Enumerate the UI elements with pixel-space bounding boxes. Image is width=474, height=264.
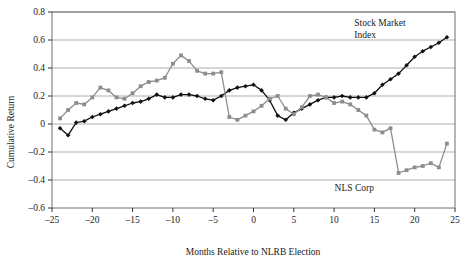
- data-point-marker: [243, 84, 248, 89]
- data-point-marker: [130, 101, 135, 106]
- data-point-marker: [324, 96, 328, 100]
- data-point-marker: [235, 118, 239, 122]
- data-point-marker: [373, 128, 377, 132]
- data-point-marker: [163, 76, 167, 80]
- series-layer: [58, 35, 449, 175]
- data-point-marker: [332, 101, 336, 105]
- data-point-marker: [195, 69, 199, 73]
- x-tick-label: 15: [370, 215, 380, 225]
- data-point-marker: [429, 161, 433, 165]
- series-label-stock-market-index: Stock Market: [354, 18, 406, 28]
- data-point-marker: [107, 89, 111, 93]
- x-tick-label: 25: [450, 215, 460, 225]
- data-point-marker: [308, 102, 313, 107]
- y-tick-label: –0.4: [27, 175, 45, 185]
- data-point-marker: [131, 91, 135, 95]
- data-point-marker: [429, 45, 434, 50]
- data-point-marker: [276, 94, 280, 98]
- data-point-marker: [356, 108, 360, 112]
- data-point-marker: [284, 107, 288, 111]
- data-point-marker: [260, 104, 264, 108]
- y-tick-label: 0: [40, 119, 45, 129]
- x-tick-label: –20: [84, 215, 100, 225]
- data-point-marker: [211, 72, 215, 76]
- y-tick-label: 0.8: [33, 7, 45, 17]
- series-label-nls-corp: NLS Corp: [335, 183, 375, 193]
- data-point-marker: [203, 97, 208, 102]
- x-tick-label: 20: [410, 215, 420, 225]
- data-point-marker: [123, 97, 127, 101]
- gridlines: [52, 12, 455, 180]
- data-point-marker: [115, 96, 119, 100]
- y-tick-label: –0.6: [27, 203, 45, 213]
- data-point-marker: [171, 62, 175, 66]
- data-point-marker: [389, 126, 393, 130]
- data-point-marker: [155, 79, 159, 83]
- data-point-marker: [74, 101, 78, 105]
- y-tick-label: 0.6: [33, 35, 45, 45]
- data-point-marker: [405, 168, 409, 172]
- x-tick-label: –10: [165, 215, 181, 225]
- data-point-marker: [147, 80, 151, 84]
- data-point-marker: [66, 108, 70, 112]
- data-point-marker: [244, 114, 248, 118]
- data-point-marker: [82, 103, 86, 107]
- data-point-marker: [195, 94, 200, 99]
- y-axis-title: Cumulative Return: [6, 95, 16, 168]
- x-tick-label: 5: [291, 215, 296, 225]
- data-point-marker: [106, 109, 111, 114]
- data-point-marker: [252, 110, 256, 114]
- data-point-marker: [58, 117, 62, 121]
- cumulative-return-line-chart: –0.6–0.4–0.200.20.40.60.8 –25–20–15–10–5…: [0, 0, 474, 264]
- x-tick-label: –15: [124, 215, 140, 225]
- x-tick-label: 0: [251, 215, 256, 225]
- data-point-marker: [219, 70, 223, 74]
- data-point-marker: [139, 84, 143, 88]
- data-point-marker: [413, 166, 417, 170]
- data-point-marker: [275, 113, 280, 118]
- data-point-marker: [146, 97, 151, 102]
- series-line: [60, 55, 447, 173]
- chart-container: –0.6–0.4–0.200.20.40.60.8 –25–20–15–10–5…: [0, 0, 474, 264]
- data-point-marker: [268, 97, 272, 101]
- y-axis-ticks: –0.6–0.4–0.200.20.40.60.8: [27, 7, 52, 213]
- x-tick-label: –5: [207, 215, 218, 225]
- data-point-marker: [82, 119, 87, 124]
- data-point-marker: [316, 93, 320, 97]
- data-point-marker: [114, 106, 119, 111]
- data-point-marker: [340, 100, 344, 104]
- data-point-marker: [308, 94, 312, 98]
- data-point-marker: [90, 96, 94, 100]
- data-point-marker: [98, 112, 103, 117]
- y-tick-label: 0.4: [33, 63, 45, 73]
- x-tick-label: –25: [44, 215, 60, 225]
- data-point-marker: [348, 103, 352, 107]
- data-point-marker: [227, 115, 231, 119]
- annotation-layer: Stock MarketIndexNLS Corp: [335, 18, 406, 193]
- data-point-marker: [437, 166, 441, 170]
- data-point-marker: [340, 94, 345, 99]
- data-point-marker: [138, 99, 143, 104]
- data-point-marker: [203, 72, 207, 76]
- data-point-marker: [397, 171, 401, 175]
- data-point-marker: [187, 59, 191, 63]
- series-label-stock-market-index-line2: Index: [354, 30, 376, 40]
- x-tick-label: 10: [329, 215, 339, 225]
- data-point-marker: [98, 86, 102, 90]
- x-axis-title: Months Relative to NLRB Election: [186, 247, 321, 257]
- y-tick-label: 0.2: [33, 91, 45, 101]
- data-point-marker: [421, 164, 425, 168]
- data-point-marker: [381, 131, 385, 135]
- data-point-marker: [179, 54, 183, 58]
- data-point-marker: [300, 105, 304, 109]
- data-point-marker: [90, 115, 95, 120]
- data-point-marker: [292, 112, 296, 116]
- data-point-marker: [235, 85, 240, 90]
- data-point-marker: [316, 98, 321, 103]
- data-point-marker: [211, 98, 216, 103]
- x-axis-ticks: –25–20–15–10–50510152025: [44, 208, 460, 225]
- y-tick-label: –0.2: [27, 147, 45, 157]
- data-point-marker: [445, 142, 449, 146]
- data-point-marker: [122, 104, 127, 109]
- data-point-marker: [364, 114, 368, 118]
